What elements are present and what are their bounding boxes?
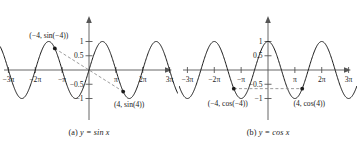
- y-tick-label-2: −0.5: [70, 80, 84, 89]
- caption-sine-prefix: (a): [69, 128, 81, 137]
- y-tick-label-1: 0.5: [74, 51, 84, 60]
- point-pos4-label: (4, cos(4)): [293, 99, 325, 108]
- x-axis-arrow: [344, 67, 351, 73]
- x-tick-label-5: 3π: [345, 75, 353, 84]
- x-tick-label-1: −2π: [208, 75, 220, 84]
- point-neg4-marker[interactable]: [53, 47, 57, 51]
- x-tick-label-3: π: [114, 75, 118, 84]
- y-axis-arrow: [86, 16, 92, 23]
- panel-sine: −3π−2π−ππ2π3π10.5−0.5−1(−4, sin(−4))(4, …: [0, 0, 178, 150]
- x-tick-label-4: 2π: [318, 75, 326, 84]
- point-pos4-label: (4, sin(4)): [114, 100, 145, 109]
- caption-cosine-prefix: (b): [247, 128, 259, 137]
- x-tick-label-2: −π: [237, 75, 245, 84]
- point-neg4-label: (−4, sin(−4)): [29, 31, 68, 40]
- y-tick-label-3: −1: [254, 94, 262, 103]
- figure-sine-cosine-graphs: −3π−2π−ππ2π3π10.5−0.5−1(−4, sin(−4))(4, …: [0, 0, 357, 150]
- x-tick-label-0: −3π: [181, 75, 193, 84]
- point-neg4-marker[interactable]: [232, 87, 236, 91]
- point-neg4-label: (−4, cos(−4)): [208, 99, 249, 108]
- caption-cosine-equation: y = cos x: [259, 128, 290, 137]
- y-tick-label-0: 1: [259, 37, 263, 46]
- point-pos4-marker[interactable]: [300, 87, 304, 91]
- point-pos4-marker[interactable]: [121, 90, 125, 94]
- caption-sine: (a) y = sin x: [0, 128, 178, 137]
- caption-sine-equation: y = sin x: [80, 128, 109, 137]
- y-tick-label-0: 1: [80, 37, 84, 46]
- x-tick-label-3: π: [293, 75, 297, 84]
- cosine-plot: −3π−2π−ππ2π3π10.5−0.5−1(−4, cos(−4))(4, …: [179, 0, 357, 126]
- y-axis-arrow: [265, 16, 271, 23]
- caption-cosine: (b) y = cos x: [179, 128, 357, 137]
- sine-plot: −3π−2π−ππ2π3π10.5−0.5−1(−4, sin(−4))(4, …: [0, 0, 178, 126]
- panel-cosine: −3π−2π−ππ2π3π10.5−0.5−1(−4, cos(−4))(4, …: [179, 0, 357, 150]
